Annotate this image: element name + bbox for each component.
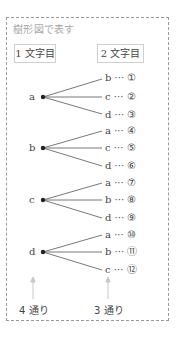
leaf-label: b ··· ⑪ bbox=[105, 246, 137, 258]
node-dot-a bbox=[41, 95, 45, 99]
leaf-label: b ··· ⑧ bbox=[105, 194, 136, 206]
branch-group-c bbox=[43, 183, 102, 218]
arrow-up-icon bbox=[106, 277, 110, 299]
root-label-a: a bbox=[29, 91, 35, 103]
node-dot-c bbox=[41, 198, 45, 202]
leaf-label: c ··· ② bbox=[105, 91, 136, 103]
leaf-label: d ··· ③ bbox=[105, 109, 136, 121]
leaf-label: a ··· ⑩ bbox=[105, 229, 136, 241]
node-dot-b bbox=[41, 146, 45, 150]
leaf-label: d ··· ⑨ bbox=[105, 212, 136, 224]
first-letter-count: 4 通り bbox=[19, 302, 49, 317]
second-letter-count: 3 通り bbox=[94, 302, 124, 317]
node-dot-d bbox=[41, 250, 45, 254]
root-label-c: c bbox=[29, 194, 35, 206]
leaf-label: b ··· ① bbox=[105, 72, 136, 84]
tree-lines bbox=[0, 0, 181, 344]
root-label-b: b bbox=[29, 142, 35, 154]
leaf-label: a ··· ④ bbox=[105, 125, 136, 137]
leaf-label: d ··· ⑥ bbox=[105, 160, 136, 172]
leaf-label: a ··· ⑦ bbox=[105, 177, 136, 189]
branch-group-a bbox=[43, 79, 102, 114]
branch-group-b bbox=[43, 131, 102, 166]
branch-group-d bbox=[43, 235, 102, 270]
arrow-up-icon bbox=[31, 277, 35, 299]
root-label-d: d bbox=[29, 246, 35, 258]
leaf-label: c ··· ⑫ bbox=[105, 264, 137, 276]
leaf-label: c ··· ⑤ bbox=[105, 142, 136, 154]
